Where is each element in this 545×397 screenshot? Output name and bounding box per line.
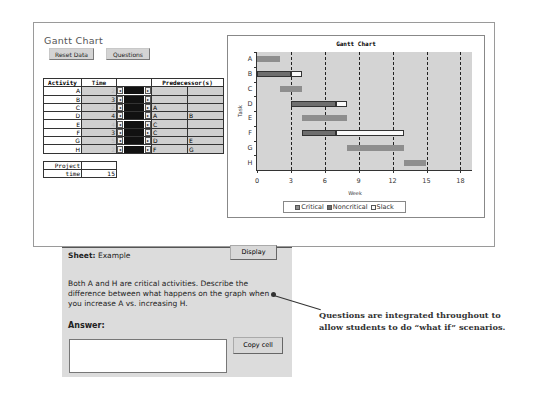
scroll-left-arrow-icon[interactable]: ◂ [117,112,123,119]
x-axis-title: Week [340,190,370,196]
time-scrollbar[interactable]: ◂▸ [117,87,152,95]
y-tick-label: H [246,159,254,167]
scroll-right-arrow-icon[interactable]: ▸ [145,146,151,153]
answer-input[interactable] [69,339,227,373]
sheet-name: Example [98,251,131,260]
legend-label: Slack [377,203,394,211]
time-scrollbar[interactable]: ◂▸ [117,95,152,103]
time-scrollbar[interactable]: ◂▸ [117,137,152,145]
y-tick [254,141,257,142]
y-tick [254,111,257,112]
scroll-thumb[interactable] [124,112,144,119]
scroll-left-arrow-icon[interactable]: ◂ [117,129,123,136]
x-axis [256,170,472,171]
activity-cell: F [44,128,82,136]
activity-cell: E [44,120,82,128]
scroll-right-arrow-icon[interactable]: ▸ [145,129,151,136]
scroll-right-arrow-icon[interactable]: ▸ [145,137,151,144]
gantt-bar-g [347,145,404,151]
scroll-right-arrow-icon[interactable]: ▸ [145,112,151,119]
predecessor-1-cell[interactable]: C [152,120,188,128]
predecessor-1-cell[interactable] [152,95,188,103]
x-tick-label: 15 [419,177,435,185]
questions-button[interactable]: Questions [106,48,150,60]
answer-label: Answer: [68,321,105,330]
scroll-right-arrow-icon[interactable]: ▸ [145,96,151,103]
scroll-left-arrow-icon[interactable]: ◂ [117,96,123,103]
time-input[interactable]: 3 [82,128,117,136]
scroll-left-arrow-icon[interactable]: ◂ [117,121,123,128]
time-scrollbar[interactable]: ◂▸ [117,120,152,128]
time-scrollbar[interactable]: ◂▸ [117,145,152,153]
scroll-thumb[interactable] [124,129,144,136]
header-predecessors: Predecessor(s) [152,79,224,87]
predecessor-2-cell[interactable]: E [188,137,224,145]
x-tick-label: 12 [385,177,401,185]
scroll-thumb[interactable] [124,104,144,111]
time-input[interactable]: 3 [82,95,117,103]
time-input[interactable]: 2 [82,87,117,95]
y-tick-label: E [246,114,254,122]
activity-cell: A [44,87,82,95]
scroll-left-arrow-icon[interactable]: ◂ [117,104,123,111]
y-tick-label: A [246,55,254,63]
predecessor-1-cell[interactable]: F [152,145,188,153]
scroll-thumb[interactable] [124,96,144,103]
time-input[interactable]: 5 [82,137,117,145]
table-row: H2◂▸FG [44,145,224,153]
x-tick-label: 18 [452,177,468,185]
scroll-left-arrow-icon[interactable]: ◂ [117,87,123,94]
predecessor-2-cell[interactable] [188,120,224,128]
x-tick [359,170,360,173]
time-scrollbar[interactable]: ◂▸ [117,112,152,120]
scroll-thumb[interactable] [124,137,144,144]
x-tick [460,170,461,173]
header-scroller [117,79,152,87]
predecessor-2-cell[interactable] [188,87,224,95]
chart-plot-area [257,52,472,170]
predecessor-1-cell[interactable]: A [152,112,188,120]
y-tick [254,96,257,97]
predecessor-1-cell[interactable]: C [152,128,188,136]
predecessor-2-cell[interactable] [188,128,224,136]
time-input[interactable]: 4 [82,112,117,120]
predecessor-2-cell[interactable] [188,95,224,103]
time-input[interactable]: 2 [82,103,117,111]
gridline [291,52,292,170]
scroll-right-arrow-icon[interactable]: ▸ [145,121,151,128]
time-input[interactable]: 4 [82,120,117,128]
x-tick [325,170,326,173]
predecessor-1-cell[interactable] [152,87,188,95]
scroll-thumb[interactable] [124,87,144,94]
predecessor-1-cell[interactable]: A [152,103,188,111]
reset-data-button[interactable]: Reset Data [49,48,94,60]
display-button[interactable]: Display [230,245,277,260]
y-tick-label: B [246,70,254,78]
chart-legend: CriticalNoncriticalSlack [283,201,406,213]
predecessor-2-cell[interactable]: G [188,145,224,153]
time-scrollbar[interactable]: ◂▸ [117,103,152,111]
predecessor-2-cell[interactable] [188,103,224,111]
scroll-thumb[interactable] [124,121,144,128]
scroll-right-arrow-icon[interactable]: ▸ [145,87,151,94]
gantt-bar-a [257,56,280,62]
predecessor-1-cell[interactable]: D [152,137,188,145]
time-input[interactable]: 2 [82,145,117,153]
time-scrollbar[interactable]: ◂▸ [117,128,152,136]
slack-bar-b [291,71,302,77]
x-tick [393,170,394,173]
y-tick [254,155,257,156]
scroll-right-arrow-icon[interactable]: ▸ [145,104,151,111]
scroll-thumb[interactable] [124,146,144,153]
copy-cell-button[interactable]: Copy cell [233,337,283,354]
header-activity: Activity [44,79,82,87]
sheet-label-prefix: Sheet: [68,251,96,260]
x-tick-label: 6 [317,177,333,185]
scroll-left-arrow-icon[interactable]: ◂ [117,146,123,153]
gridline [460,52,461,170]
project-time-label-2: time [44,170,82,178]
scroll-left-arrow-icon[interactable]: ◂ [117,137,123,144]
gantt-bar-e [302,115,347,121]
predecessor-2-cell[interactable]: B [188,112,224,120]
activity-table: Activity Time Predecessor(s) A2◂▸B3◂▸C2◂… [43,78,224,154]
